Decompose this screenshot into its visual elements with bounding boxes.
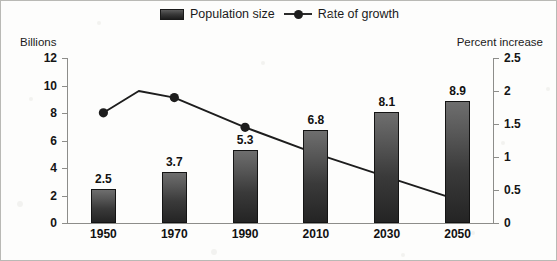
x-axis-tick-label: 1950 (90, 227, 117, 241)
scan-speckle (471, 231, 475, 235)
bar-value-label: 8.9 (449, 84, 466, 98)
legend-label-population-size: Population size (190, 7, 275, 21)
right-axis-title: Percent increase (457, 36, 543, 48)
right-axis-tick-label: 1 (504, 157, 511, 171)
bar-population-size (445, 101, 470, 223)
x-axis-tick-label: 1970 (161, 227, 188, 241)
x-axis-tick-label: 2050 (444, 227, 471, 241)
left-axis-tick (62, 58, 68, 59)
right-axis-tick (493, 157, 499, 158)
left-axis-tick (62, 223, 68, 224)
plot-area: 1210864202.521.510.502.519503.719705.319… (67, 58, 494, 224)
x-axis-tick-label: 1990 (232, 227, 259, 241)
left-axis-tick-label: 4 (50, 168, 57, 182)
chart-figure: Population size Rate of growth Billions … (0, 0, 557, 261)
bar-population-size (303, 130, 328, 224)
right-axis-tick (493, 190, 499, 191)
scan-speckle (401, 253, 405, 257)
right-axis-tick-label: 0 (504, 223, 511, 237)
rate-of-growth-polyline (103, 91, 457, 200)
bar-value-label: 5.3 (237, 133, 254, 147)
left-axis-tick (62, 168, 68, 169)
left-axis-tick-label: 6 (50, 141, 57, 155)
right-axis-tick-label: 2 (504, 91, 511, 105)
scan-speckle (331, 13, 335, 17)
scan-speckle (211, 249, 217, 255)
bar-value-label: 6.8 (308, 113, 325, 127)
legend-label-rate-of-growth: Rate of growth (318, 7, 399, 21)
left-axis-tick-label: 12 (44, 58, 57, 72)
line-marker-icon (284, 9, 312, 19)
right-axis-tick (493, 223, 499, 224)
left-axis-title: Billions (20, 36, 56, 48)
scan-speckle (501, 141, 505, 145)
right-axis-tick (493, 124, 499, 125)
bar-population-size (162, 172, 187, 223)
bar-population-size (233, 150, 258, 223)
rate-of-growth-data-point (99, 108, 108, 117)
right-axis-tick (493, 58, 499, 59)
left-axis-tick (62, 86, 68, 87)
scan-speckle (29, 97, 33, 101)
legend-item-rate-of-growth: Rate of growth (284, 7, 399, 21)
rate-of-growth-line (68, 58, 493, 223)
left-axis-tick (62, 196, 68, 197)
rate-of-growth-data-point (241, 123, 250, 132)
legend-item-population-size: Population size (160, 7, 275, 21)
chart-legend: Population size Rate of growth (1, 7, 557, 21)
x-axis-tick-label: 2010 (303, 227, 330, 241)
x-axis-tick-label: 2030 (373, 227, 400, 241)
scan-speckle (17, 201, 23, 207)
right-axis-tick-label: 2.5 (504, 58, 521, 72)
right-axis-tick-label: 1.5 (504, 124, 521, 138)
bar-value-label: 2.5 (95, 172, 112, 186)
bar-population-size (91, 189, 116, 223)
bar-value-label: 3.7 (166, 155, 183, 169)
right-axis-tick-label: 0.5 (504, 190, 521, 204)
left-axis-tick-label: 2 (50, 196, 57, 210)
left-axis-tick-label: 8 (50, 113, 57, 127)
bar-swatch-icon (160, 9, 184, 20)
bar-population-size (374, 112, 399, 223)
left-axis-tick-label: 10 (44, 86, 57, 100)
right-axis-tick (493, 91, 499, 92)
rate-of-growth-data-point (170, 93, 179, 102)
scan-speckle (97, 21, 101, 25)
scan-speckle (261, 61, 265, 65)
left-axis-tick (62, 113, 68, 114)
bar-value-label: 8.1 (378, 95, 395, 109)
left-axis-tick-label: 0 (50, 223, 57, 237)
left-axis-tick (62, 141, 68, 142)
scan-speckle (546, 87, 550, 91)
